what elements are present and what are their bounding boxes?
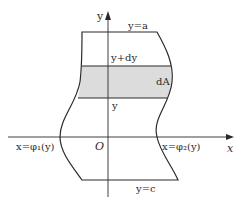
area-element-label: dA (156, 76, 170, 87)
strip-upper-label: y+dy (110, 52, 137, 63)
x-axis-label: x (227, 142, 234, 155)
y-axis-arrow-icon (105, 11, 111, 20)
y-axis-label: y (96, 10, 104, 23)
strip-lower-label: y (111, 100, 118, 111)
bottom-boundary-label: y=c (135, 183, 156, 194)
top-boundary-label: y=a (127, 20, 148, 31)
x-axis-arrow-icon (226, 134, 234, 140)
origin-label: O (95, 140, 104, 153)
right-boundary-label: x=φ₂(y) (162, 141, 201, 152)
left-boundary-label: x=φ₁(y) (16, 141, 55, 152)
region-diagram: y x O y=a y=c x=φ₁(y) x=φ₂(y) y+dy y dA (0, 0, 242, 200)
